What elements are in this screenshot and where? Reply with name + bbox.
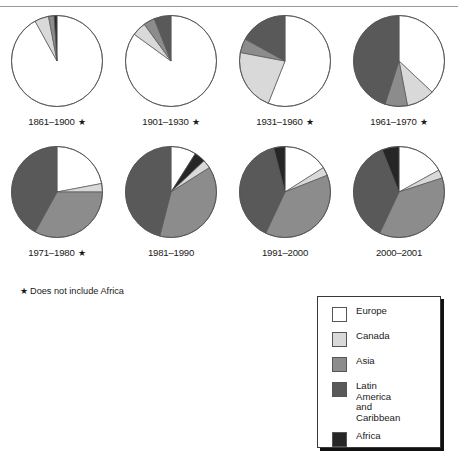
pie-label: 1981–1990 (148, 247, 194, 258)
pie-label-text: 2000–2001 (376, 247, 422, 258)
pie-label-star-icon: ★ (417, 117, 428, 127)
legend-label-line: Asia (356, 356, 375, 367)
pie-label-star-icon: ★ (303, 117, 314, 127)
pie-graphic (238, 14, 332, 108)
legend-swatch-africa (332, 432, 347, 447)
pie-label-text: 1961–1970 (370, 116, 416, 127)
pie-chart-1991-2000: 1991–2000 (228, 145, 342, 258)
footnote-text: Does not include Africa (30, 286, 124, 296)
pie-label-text: 1861–1900 (28, 116, 74, 127)
pie-label-text: 1981–1990 (148, 247, 194, 258)
legend-swatch-europe (332, 307, 347, 322)
pie-graphic (352, 14, 446, 108)
legend-item-africa: Africa (332, 431, 440, 447)
pie-label: 1901–1930 ★ (142, 116, 199, 127)
pie-label: 2000–2001 (376, 247, 422, 258)
pie-label-text: 1901–1930 (142, 116, 188, 127)
legend-label: Canada (356, 331, 390, 342)
legend-item-europe: Europe (332, 306, 440, 322)
pie-chart-1961-1970: 1961–1970 ★ (342, 14, 456, 127)
legend-label-line: Africa (356, 431, 381, 442)
pie-chart-1901-1930: 1901–1930 ★ (114, 14, 228, 127)
pie-label-text: 1971–1980 (28, 247, 74, 258)
legend-label-line: Caribbean (356, 413, 400, 424)
pie-chart-1981-1990: 1981–1990 (114, 145, 228, 258)
top-divider (0, 6, 458, 7)
pie-graphic (124, 145, 218, 239)
pie-graphic (10, 145, 104, 239)
legend-swatch-latin_america_caribbean (332, 382, 347, 397)
pie-label: 1971–1980 ★ (28, 247, 85, 258)
pie-chart-1971-1980: 1971–1980 ★ (0, 145, 114, 258)
pie-label-star-icon: ★ (75, 117, 86, 127)
pie-row-top: 1861–1900 ★1901–1930 ★1931–1960 ★1961–19… (0, 14, 458, 127)
pie-graphic (124, 14, 218, 108)
legend-label-line: Europe (356, 306, 387, 317)
pie-label: 1861–1900 ★ (28, 116, 85, 127)
pie-chart-grid: 1861–1900 ★1901–1930 ★1931–1960 ★1961–19… (0, 14, 458, 258)
pie-label: 1931–1960 ★ (256, 116, 313, 127)
footnote: ★Does not include Africa (20, 286, 124, 296)
legend-label: LatinAmericaandCaribbean (356, 381, 400, 423)
legend-item-asia: Asia (332, 356, 440, 372)
legend-label: Africa (356, 431, 381, 442)
pie-chart-2000-2001: 2000–2001 (342, 145, 456, 258)
legend-box: EuropeCanadaAsiaLatinAmericaandCaribbean… (317, 296, 441, 448)
pie-label-star-icon: ★ (189, 117, 200, 127)
pie-chart-1931-1960: 1931–1960 ★ (228, 14, 342, 127)
pie-label: 1991–2000 (262, 247, 308, 258)
pie-graphic (352, 145, 446, 239)
pie-label-star-icon: ★ (75, 248, 86, 258)
footnote-star-icon: ★ (20, 286, 30, 296)
pie-row-bottom: 1971–1980 ★1981–19901991–20002000–2001 (0, 145, 458, 258)
legend-swatch-asia (332, 357, 347, 372)
legend-swatch-canada (332, 332, 347, 347)
legend-item-latin_america_caribbean: LatinAmericaandCaribbean (332, 381, 440, 423)
pie-chart-1861-1900: 1861–1900 ★ (0, 14, 114, 127)
pie-label: 1961–1970 ★ (370, 116, 427, 127)
pie-graphic (238, 145, 332, 239)
legend-label-line: Canada (356, 331, 390, 342)
pie-graphic (10, 14, 104, 108)
legend-label: Asia (356, 356, 375, 367)
pie-label-text: 1931–1960 (256, 116, 302, 127)
pie-label-text: 1991–2000 (262, 247, 308, 258)
legend-label-line: Latin (356, 381, 400, 392)
legend-label: Europe (356, 306, 387, 317)
legend-item-canada: Canada (332, 331, 440, 347)
legend-label-line: and (356, 402, 400, 413)
